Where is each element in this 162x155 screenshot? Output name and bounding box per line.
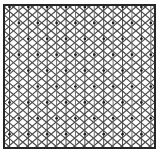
lattice-node xyxy=(18,117,21,120)
lattice-node xyxy=(102,101,105,104)
lattice-node xyxy=(121,37,124,40)
lattice-node xyxy=(65,6,68,9)
lattice-node xyxy=(93,85,96,88)
lattice-node xyxy=(65,37,68,40)
lattice-node xyxy=(65,101,68,104)
lattice-node xyxy=(131,22,134,25)
lattice-node xyxy=(84,69,87,72)
lattice-node xyxy=(112,22,115,25)
lattice-node xyxy=(140,6,143,9)
lattice-node xyxy=(112,85,115,88)
lattice-node xyxy=(93,53,96,56)
lattice-node xyxy=(8,101,11,104)
lattice-node xyxy=(74,85,77,88)
lattice-node xyxy=(84,37,87,40)
lattice-node xyxy=(55,85,58,88)
lattice-node xyxy=(46,69,49,72)
lattice-node xyxy=(65,133,68,136)
lattice-node xyxy=(93,117,96,120)
lattice-node xyxy=(102,37,105,40)
lattice-node xyxy=(46,133,49,136)
lattice-node xyxy=(74,22,77,25)
lattice-node xyxy=(46,6,49,9)
lattice-node xyxy=(149,53,152,56)
lattice-node xyxy=(55,53,58,56)
lattice-node xyxy=(121,69,124,72)
lattice-node xyxy=(27,69,30,72)
lattice-node xyxy=(36,53,39,56)
lattice-node xyxy=(149,85,152,88)
lattice-node xyxy=(84,101,87,104)
lattice-node xyxy=(18,22,21,25)
lattice-node xyxy=(131,53,134,56)
lattice-node xyxy=(36,85,39,88)
lattice-node xyxy=(18,85,21,88)
lattice-node xyxy=(8,69,11,72)
lattice-node xyxy=(8,6,11,9)
lattice-node xyxy=(149,22,152,25)
lattice-node xyxy=(121,101,124,104)
lattice-node xyxy=(102,133,105,136)
lattice-node xyxy=(27,101,30,104)
lattice-node xyxy=(93,22,96,25)
lattice-figure xyxy=(0,0,162,155)
lattice-node xyxy=(112,53,115,56)
lattice-node xyxy=(65,69,68,72)
lattice-node xyxy=(84,6,87,9)
lattice-node xyxy=(18,53,21,56)
lattice-node xyxy=(46,101,49,104)
lattice-node xyxy=(121,6,124,9)
lattice-node xyxy=(102,6,105,9)
lattice-diagram-canvas xyxy=(0,0,162,155)
lattice-node xyxy=(84,133,87,136)
lattice-node xyxy=(27,37,30,40)
lattice-node xyxy=(131,85,134,88)
lattice-node xyxy=(140,37,143,40)
lattice-node xyxy=(131,117,134,120)
lattice-node xyxy=(8,133,11,136)
lattice-node xyxy=(36,22,39,25)
lattice-node xyxy=(27,133,30,136)
lattice-node xyxy=(55,22,58,25)
lattice-node xyxy=(102,69,105,72)
lattice-node xyxy=(149,117,152,120)
lattice-node xyxy=(140,101,143,104)
lattice-node xyxy=(55,117,58,120)
lattice-node xyxy=(112,117,115,120)
lattice-node xyxy=(27,6,30,9)
lattice-node xyxy=(74,53,77,56)
lattice-node xyxy=(36,117,39,120)
lattice-node xyxy=(74,117,77,120)
lattice-node xyxy=(8,37,11,40)
lattice-node xyxy=(140,69,143,72)
lattice-node xyxy=(121,133,124,136)
lattice-node xyxy=(46,37,49,40)
lattice-node xyxy=(140,133,143,136)
